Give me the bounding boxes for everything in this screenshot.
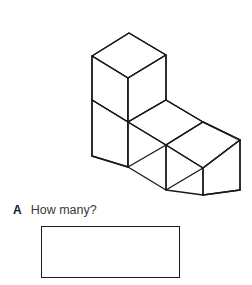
question-row: A How many? xyxy=(0,198,252,222)
question-letter: A xyxy=(13,204,22,216)
answer-box[interactable] xyxy=(41,226,180,278)
isometric-cube-stack-svg xyxy=(0,0,252,200)
question-prompt: How many? xyxy=(31,204,97,217)
cube-figure xyxy=(0,0,252,200)
worksheet-page: A How many? xyxy=(0,0,252,285)
